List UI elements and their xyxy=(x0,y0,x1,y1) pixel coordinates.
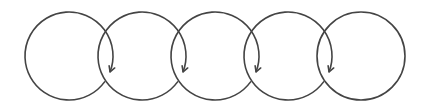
circle-1 xyxy=(25,12,115,100)
circle-4 xyxy=(244,12,334,100)
ring-arc xyxy=(244,12,332,100)
circle-5 xyxy=(317,12,405,100)
ring xyxy=(317,12,405,100)
circle-chain-diagram xyxy=(0,0,427,109)
circle-2 xyxy=(98,12,188,100)
ring-arc xyxy=(171,12,259,100)
circle-3 xyxy=(171,12,261,100)
ring-arc xyxy=(25,12,113,100)
ring-arc xyxy=(98,12,186,100)
